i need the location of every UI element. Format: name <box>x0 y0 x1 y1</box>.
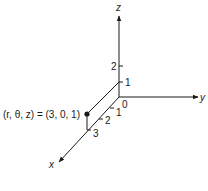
x-tick-label-2: 2 <box>105 115 111 126</box>
cylindrical-coordinate-diagram: z y x 0 1 2 1 2 3 (r, θ, z) = (3, 0, 1) <box>0 0 208 191</box>
projection-line-to-z1 <box>87 82 119 114</box>
point-marker <box>84 111 89 116</box>
z-tick-label-2: 2 <box>111 61 117 72</box>
z-tick-label-1: 1 <box>125 77 131 88</box>
z-axis-label: z <box>115 2 121 13</box>
point-label: (r, θ, z) = (3, 0, 1) <box>3 109 80 120</box>
origin-label: 0 <box>122 99 128 110</box>
x-tick-label-1: 1 <box>116 107 122 118</box>
y-axis-label: y <box>199 92 206 103</box>
x-tick-label-3: 3 <box>93 128 99 139</box>
x-axis-label: x <box>48 159 55 170</box>
